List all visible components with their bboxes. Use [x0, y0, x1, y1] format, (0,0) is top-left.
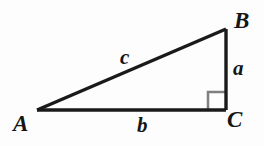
side-label-b: b: [137, 115, 148, 136]
right-angle-marker-icon: [208, 92, 225, 110]
vertex-label-a: A: [13, 112, 28, 135]
side-label-a: a: [233, 58, 244, 79]
triangle-drawing: [0, 0, 264, 146]
right-triangle-figure: A B C a b c: [0, 0, 264, 146]
vertex-label-c: C: [227, 108, 242, 131]
side-label-c: c: [120, 47, 129, 68]
side-c-segment: [37, 29, 226, 110]
vertex-label-b: B: [234, 9, 249, 32]
